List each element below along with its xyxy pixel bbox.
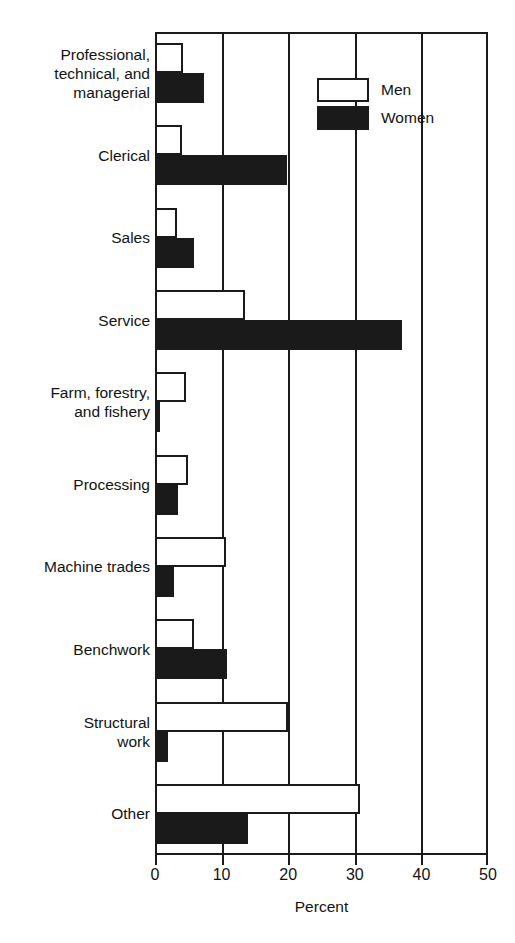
bar-women — [155, 485, 178, 515]
bar-women — [155, 320, 402, 350]
category-label: Sales — [5, 228, 150, 247]
category-label: Farm, forestry, and fishery — [5, 383, 150, 421]
bar-men — [155, 290, 245, 320]
x-tick-label: 50 — [479, 866, 497, 884]
bar-women — [155, 73, 204, 103]
legend-swatch-men-icon — [317, 78, 369, 102]
bar-men — [155, 372, 186, 402]
bar-men — [155, 125, 182, 155]
legend-label-men: Men — [381, 81, 411, 99]
legend-item-men: Men — [317, 76, 434, 104]
category-label: Processing — [5, 475, 150, 494]
x-tick-label: 30 — [346, 866, 364, 884]
x-axis-ticks — [155, 855, 488, 865]
category-label: Other — [5, 804, 150, 823]
legend-swatch-women-icon — [317, 106, 369, 130]
x-axis-title: Percent — [155, 898, 488, 916]
category-label: Clerical — [5, 146, 150, 165]
bar-group — [155, 773, 488, 855]
x-tick — [355, 855, 357, 865]
bar-men — [155, 43, 183, 73]
category-label: Structural work — [5, 713, 150, 751]
chart-legend: Men Women — [317, 76, 434, 132]
bar-women — [155, 649, 227, 679]
bar-women — [155, 402, 160, 432]
x-tick — [288, 855, 290, 865]
x-tick — [486, 855, 488, 865]
bar-women — [155, 814, 248, 844]
bar-women — [155, 238, 194, 268]
bar-group — [155, 197, 488, 279]
legend-label-women: Women — [381, 109, 434, 127]
x-tick-label: 20 — [279, 866, 297, 884]
bar-women — [155, 732, 168, 762]
bar-men — [155, 702, 288, 732]
bar-group — [155, 361, 488, 443]
x-tick — [222, 855, 224, 865]
bar-men — [155, 455, 188, 485]
bar-men — [155, 208, 177, 238]
bar-men — [155, 784, 360, 814]
bar-group — [155, 444, 488, 526]
x-tick-label: 10 — [213, 866, 231, 884]
x-tick-label: 0 — [151, 866, 160, 884]
bar-group — [155, 526, 488, 608]
bar-women — [155, 567, 174, 597]
bar-group — [155, 690, 488, 772]
category-label: Benchwork — [5, 640, 150, 659]
x-tick — [421, 855, 423, 865]
bar-group — [155, 608, 488, 690]
bar-group — [155, 279, 488, 361]
bar-women — [155, 155, 287, 185]
bars-layer — [155, 32, 488, 855]
grouped-bar-chart: Professional, technical, and managerialC… — [0, 0, 515, 943]
category-label: Service — [5, 311, 150, 330]
bar-men — [155, 537, 226, 567]
bar-men — [155, 619, 194, 649]
category-labels: Professional, technical, and managerialC… — [0, 32, 150, 855]
category-label: Machine trades — [5, 557, 150, 576]
x-tick — [155, 855, 157, 865]
x-tick-label: 40 — [412, 866, 430, 884]
legend-item-women: Women — [317, 104, 434, 132]
category-label: Professional, technical, and managerial — [5, 45, 150, 102]
